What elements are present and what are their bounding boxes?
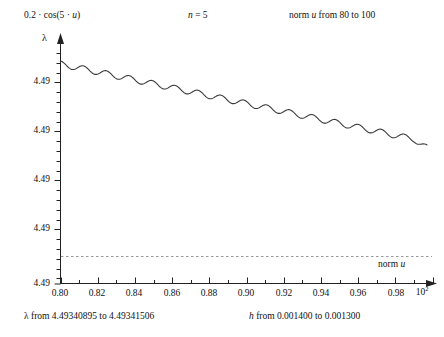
plot-canvas: [0, 0, 444, 337]
lambda-series-curve: [61, 61, 428, 145]
plot-figure: 0.2 · cos(5 · u) n = 5 norm u from 80 to…: [0, 0, 444, 337]
y-axis-minor-ticks: [57, 54, 61, 279]
y-axis: [57, 33, 64, 284]
x-axis-arrowhead: [426, 280, 437, 287]
y-axis-arrowhead: [57, 33, 64, 44]
